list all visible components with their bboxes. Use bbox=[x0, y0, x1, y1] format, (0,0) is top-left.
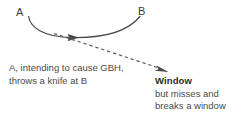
caption-right-line-1: but misses and bbox=[155, 88, 226, 101]
actual-trajectory-arrowhead bbox=[155, 66, 169, 73]
node-label-a: A bbox=[16, 7, 23, 18]
caption-right-heading: Window bbox=[155, 75, 226, 88]
intended-throw-curve bbox=[29, 17, 141, 38]
diagram-canvas: A B A, intending to cause GBH, throws a … bbox=[0, 0, 238, 120]
caption-right-line-2: breaks a window bbox=[155, 100, 226, 113]
intended-throw-edge bbox=[29, 17, 141, 42]
caption-left-line-1: A, intending to cause GBH, bbox=[9, 62, 124, 75]
caption-right: Window but misses and breaks a window bbox=[155, 75, 226, 113]
caption-left-line-2: throws a knife at B bbox=[9, 75, 124, 88]
caption-left: A, intending to cause GBH, throws a knif… bbox=[9, 62, 124, 87]
node-label-b: B bbox=[138, 6, 145, 17]
